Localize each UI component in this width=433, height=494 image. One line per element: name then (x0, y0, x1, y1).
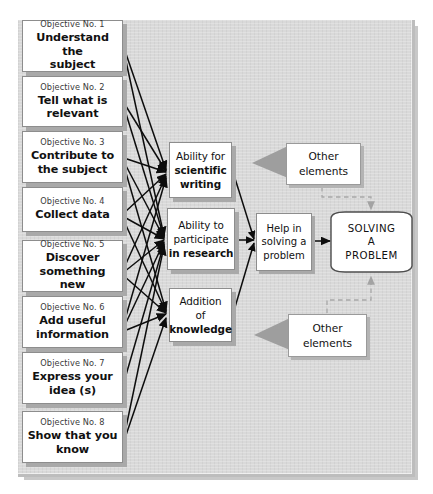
objective-text-6: Add usefulinformation (36, 314, 109, 341)
other-elements-box-bottom[interactable]: Other elements (288, 314, 367, 357)
objective-number-1: Objective No. 1 (40, 19, 104, 30)
objective-text-4: Collect data (35, 208, 109, 221)
help-line-3: problem (263, 249, 304, 263)
objective-number-3: Objective No. 3 (40, 137, 104, 148)
objective-box-3[interactable]: Objective No. 3 Contribute tothe subject (22, 131, 123, 183)
objective-box-5[interactable]: Objective No. 5 Discoversomething new (22, 240, 123, 292)
objective-number-7: Objective No. 7 (40, 358, 104, 369)
help-line-1: Help in (266, 222, 301, 236)
objective-number-2: Objective No. 2 (40, 82, 104, 93)
objective-number-8: Objective No. 8 (40, 417, 104, 428)
objective-text-7: Express youridea (s) (32, 370, 112, 397)
other-elements-line-2: elements (303, 336, 352, 351)
objective-text-3: Contribute tothe subject (31, 149, 114, 176)
diagram-canvas: Objective No. 1 Understand thesubject Ob… (0, 0, 433, 494)
objective-text-1: Understand thesubject (26, 31, 119, 71)
objective-number-6: Objective No. 6 (40, 302, 104, 313)
goal-hexagon[interactable]: SOLVING A PROBLEM (330, 211, 413, 273)
ability-box-participate-research[interactable]: Ability to participate in research (167, 208, 235, 270)
ability-line-2: of (196, 308, 206, 322)
ability-line-3: writing (180, 177, 221, 191)
objective-box-1[interactable]: Objective No. 1 Understand thesubject (22, 20, 123, 72)
callout-triangle-top (252, 146, 288, 178)
objective-text-2: Tell what isrelevant (38, 94, 108, 121)
other-elements-box-top[interactable]: Other elements (286, 143, 361, 185)
ability-box-addition-knowledge[interactable]: Addition of knowledge (169, 288, 232, 342)
other-elements-line-2: elements (299, 164, 348, 179)
objective-box-4[interactable]: Objective No. 4 Collect data (22, 187, 123, 232)
ability-line-1: Ability to (178, 218, 223, 232)
objective-text-5: Discoversomething new (26, 251, 119, 291)
help-line-2: solving a (262, 235, 307, 249)
help-solving-problem-box[interactable]: Help in solving a problem (256, 213, 312, 271)
objective-number-4: Objective No. 4 (40, 196, 104, 207)
ability-line-2: participate (173, 232, 228, 246)
objective-number-5: Objective No. 5 (40, 239, 104, 250)
objective-box-8[interactable]: Objective No. 8 Show that youknow (22, 411, 123, 463)
other-elements-line-1: Other (312, 321, 342, 336)
ability-line-3: in research (169, 246, 234, 260)
ability-box-scientific-writing[interactable]: Ability for scientific writing (169, 142, 232, 198)
ability-line-3: knowledge (169, 322, 232, 336)
objective-box-2[interactable]: Objective No. 2 Tell what isrelevant (22, 76, 123, 127)
ability-line-2: scientific (174, 163, 226, 177)
ability-line-1: Addition (179, 294, 221, 308)
callout-triangle-bottom (254, 318, 290, 350)
objective-text-8: Show that youknow (28, 429, 118, 456)
hexagon-shape (330, 211, 413, 273)
objective-box-6[interactable]: Objective No. 6 Add usefulinformation (22, 296, 123, 348)
ability-line-1: Ability for (176, 149, 225, 163)
other-elements-line-1: Other (308, 149, 338, 164)
objective-box-7[interactable]: Objective No. 7 Express youridea (s) (22, 352, 123, 404)
